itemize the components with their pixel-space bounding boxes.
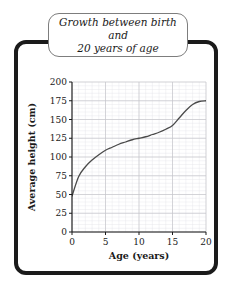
y-axis-title: Average height (cm) xyxy=(26,103,37,212)
growth-chart: 0255075100125150175200 05101520 Age (yea… xyxy=(18,44,222,279)
x-tick-label: 10 xyxy=(133,237,145,247)
y-tick-label: 25 xyxy=(56,208,68,218)
figure-frame: 0255075100125150175200 05101520 Age (yea… xyxy=(14,40,218,275)
y-tick-label: 200 xyxy=(50,77,67,87)
x-tick-label: 0 xyxy=(69,237,75,247)
chart-title-callout: Growth between birth and 20 years of age xyxy=(48,13,188,57)
y-tick-label: 100 xyxy=(50,152,67,162)
x-tick-label: 5 xyxy=(103,237,109,247)
y-tick-label: 0 xyxy=(61,227,67,237)
x-axis-title: Age (years) xyxy=(108,250,169,261)
title-line-1: Growth between birth and xyxy=(59,16,177,41)
x-tick-label: 20 xyxy=(200,237,212,247)
y-tick-label: 125 xyxy=(50,133,67,143)
y-axis-ticks: 0255075100125150175200 xyxy=(50,77,72,237)
page-title: Growth between birth and 20 years of age xyxy=(49,16,187,55)
x-axis-ticks: 05101520 xyxy=(69,232,212,247)
x-tick-label: 15 xyxy=(167,237,179,247)
y-tick-label: 75 xyxy=(56,171,68,181)
chart-canvas: 0255075100125150175200 05101520 Age (yea… xyxy=(18,44,222,279)
y-tick-label: 50 xyxy=(56,190,68,200)
y-tick-label: 150 xyxy=(50,115,67,125)
title-line-2: 20 years of age xyxy=(77,42,159,54)
y-tick-label: 175 xyxy=(50,96,67,106)
